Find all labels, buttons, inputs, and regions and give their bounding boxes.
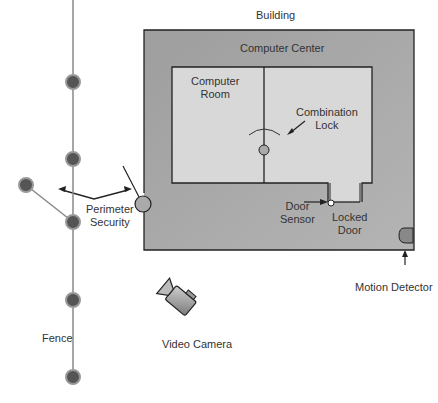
computer-center-label: Computer Center — [240, 42, 324, 55]
combination-lock-label: Combination Lock — [296, 106, 358, 132]
motion-detector-label: Motion Detector — [355, 281, 433, 294]
fence-label: Fence — [42, 332, 73, 345]
video-camera-label: Video Camera — [162, 338, 232, 351]
computer-room-label: Computer Room — [191, 75, 239, 101]
door-sensor-label: Door Sensor — [280, 200, 315, 226]
perimeter-security-label: Perimeter Security — [86, 203, 134, 229]
locked-door-label: Locked Door — [332, 211, 367, 237]
building-label: Building — [256, 9, 295, 22]
video-camera-icon — [157, 276, 199, 317]
